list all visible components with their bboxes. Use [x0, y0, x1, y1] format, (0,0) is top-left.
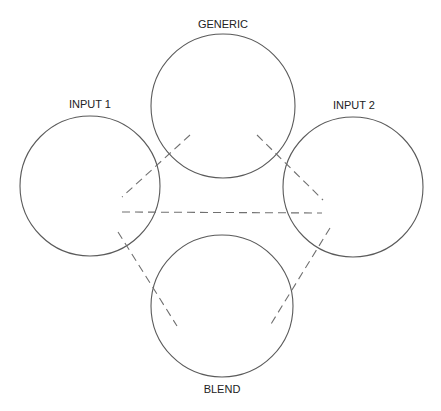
generic-label: GENERIC: [198, 18, 248, 30]
input1-label: INPUT 1: [69, 98, 111, 110]
connector-input2-blend: [271, 228, 330, 324]
blend-label: BLEND: [204, 383, 241, 395]
connector-input1-input2: [122, 212, 322, 213]
connector-input1-blend: [118, 232, 177, 326]
connector-generic-input1: [122, 135, 190, 197]
input2-label: INPUT 2: [333, 99, 375, 111]
generic-space-circle: [151, 34, 295, 178]
input1-space-circle: [20, 116, 160, 256]
connector-generic-input2: [257, 135, 323, 200]
input2-space-circle: [283, 117, 423, 257]
blend-space-circle: [151, 235, 293, 377]
blend-diagram: GENERIC INPUT 1 INPUT 2 BLEND: [0, 0, 441, 411]
